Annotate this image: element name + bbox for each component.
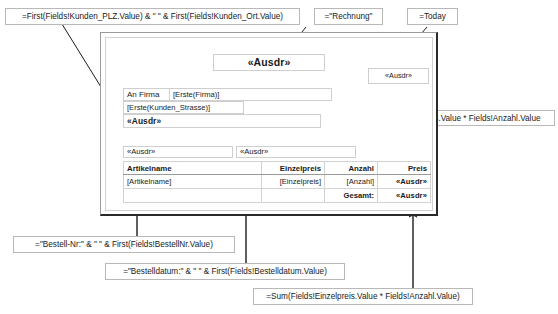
cell-artikelname[interactable]: [Artikelname] xyxy=(124,175,262,189)
label-an-firma: An Firma xyxy=(123,88,169,101)
cell-preis[interactable]: «Ausdr» xyxy=(378,175,431,189)
callout-plz-ort: =First(Fields!Kunden_PLZ.Value) & " " & … xyxy=(5,8,300,25)
field-bestellnr[interactable]: «Ausdr» xyxy=(123,146,233,158)
callout-today: =Today xyxy=(407,8,458,25)
column-header-einzelpreis: Einzelpreis xyxy=(262,162,325,175)
column-header-preis: Preis xyxy=(378,162,431,175)
field-kunden-strasse[interactable]: [Erste(Kunden_Strasse)] xyxy=(123,101,244,114)
column-header-artikelname: Artikelname xyxy=(124,162,262,175)
column-header-anzahl: Anzahl xyxy=(325,162,378,175)
field-firma[interactable]: [Erste(Firma)] xyxy=(169,88,332,101)
table-header-row: Artikelname Einzelpreis Anzahl Preis xyxy=(124,162,431,175)
cell-total-spacer-2 xyxy=(262,189,325,203)
cell-einzelpreis[interactable]: [Einzelpreis] xyxy=(262,175,325,189)
report-title-textbox[interactable]: «Ausdr» xyxy=(213,54,325,71)
cell-gesamt-value[interactable]: «Ausdr» xyxy=(378,189,431,203)
callout-bestelldatum: ="Bestelldatum:" & " " & First(Fields!Be… xyxy=(105,263,345,280)
field-plz-ort[interactable]: «Ausdr» xyxy=(123,114,321,128)
callout-gesamt-formula: =Sum(Fields!Einzelpreis.Value * Fields!A… xyxy=(253,288,473,305)
table-total-row[interactable]: Gesamt: «Ausdr» xyxy=(124,189,431,203)
cell-gesamt-label: Gesamt: xyxy=(325,189,378,203)
callout-rechnung: ="Rechnung" xyxy=(314,8,383,25)
items-table: Artikelname Einzelpreis Anzahl Preis [Ar… xyxy=(123,161,431,203)
table-row[interactable]: [Artikelname] [Einzelpreis] [Anzahl] «Au… xyxy=(124,175,431,189)
cell-anzahl[interactable]: [Anzahl] xyxy=(325,175,378,189)
report-designer-frame: «Ausdr» «Ausdr» An Firma [Erste(Firma)] … xyxy=(100,32,438,216)
field-bestelldatum[interactable]: «Ausdr» xyxy=(236,146,356,158)
report-canvas: «Ausdr» «Ausdr» An Firma [Erste(Firma)] … xyxy=(105,37,433,211)
callout-bestellnr: ="Bestell-Nr:" & " " & First(Fields!Best… xyxy=(13,236,235,253)
report-date-textbox[interactable]: «Ausdr» xyxy=(368,68,429,84)
report-designer-annotated-diagram: =First(Fields!Kunden_PLZ.Value) & " " & … xyxy=(0,0,558,314)
cell-total-spacer-1 xyxy=(124,189,262,203)
